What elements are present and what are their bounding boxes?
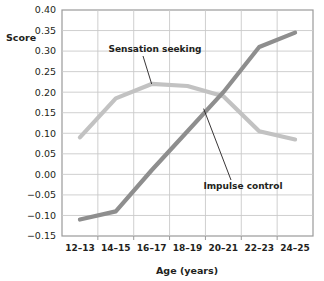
y-tick-label: 0.25 [35, 66, 56, 77]
y-tick-label: 0.40 [35, 4, 56, 15]
y-tick-label: 0.35 [35, 25, 56, 36]
y-tick-label: 0.00 [35, 169, 56, 180]
y-tick-label: 0.20 [35, 87, 56, 98]
y-tick-label: −0.05 [27, 189, 56, 200]
y-axis-title: Score [6, 32, 36, 43]
x-axis-tick-labels: 12–1314–1516–1718–1920–2122–2324–25 [65, 243, 310, 253]
y-tick-label: 0.30 [35, 45, 56, 56]
x-tick-label: 16–17 [137, 243, 167, 253]
x-tick-label: 12–13 [65, 243, 95, 253]
x-tick-label: 20–21 [209, 243, 239, 253]
x-axis-title: Age (years) [156, 265, 218, 276]
x-tick-label: 22–23 [244, 243, 274, 253]
x-tick-label: 14–15 [101, 243, 131, 253]
y-tick-label: 0.10 [35, 128, 56, 139]
y-tick-label: −0.10 [27, 210, 56, 221]
annotation-label: Impulse control [203, 181, 282, 191]
y-tick-label: 0.05 [35, 148, 56, 159]
annotation-label: Sensation seeking [108, 44, 201, 54]
x-tick-label: 24–25 [280, 243, 310, 253]
line-chart: 0.400.350.300.250.200.150.100.050.00−0.0… [0, 0, 324, 281]
y-tick-label: −0.15 [27, 230, 56, 241]
y-tick-label: 0.15 [35, 107, 56, 118]
x-tick-label: 18–19 [173, 243, 203, 253]
chart-container: 0.400.350.300.250.200.150.100.050.00−0.0… [0, 0, 324, 281]
